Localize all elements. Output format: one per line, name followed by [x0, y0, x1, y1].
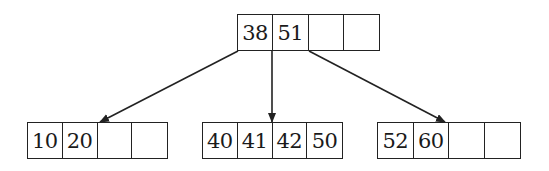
leaf-node-right: 52 60	[377, 122, 521, 159]
key-cell: 51	[273, 15, 308, 50]
edge-arrow	[309, 51, 445, 122]
key-cell	[485, 123, 520, 158]
key-cell	[344, 15, 379, 50]
key-cell: 10	[28, 123, 63, 158]
key-cell	[98, 123, 133, 158]
key-cell: 52	[378, 123, 414, 158]
key-cell: 40	[203, 123, 238, 158]
key-cell: 38	[238, 15, 273, 50]
edge-arrow	[100, 51, 238, 122]
key-cell: 60	[414, 123, 450, 158]
key-cell: 50	[307, 123, 342, 158]
root-node: 38 51	[237, 14, 380, 51]
key-cell: 42	[273, 123, 308, 158]
leaf-node-middle: 40 41 42 50	[202, 122, 343, 159]
leaf-node-left: 10 20	[27, 122, 168, 159]
key-cell: 20	[63, 123, 98, 158]
key-cell	[132, 123, 167, 158]
key-cell: 41	[238, 123, 273, 158]
key-cell	[449, 123, 485, 158]
key-cell	[309, 15, 344, 50]
